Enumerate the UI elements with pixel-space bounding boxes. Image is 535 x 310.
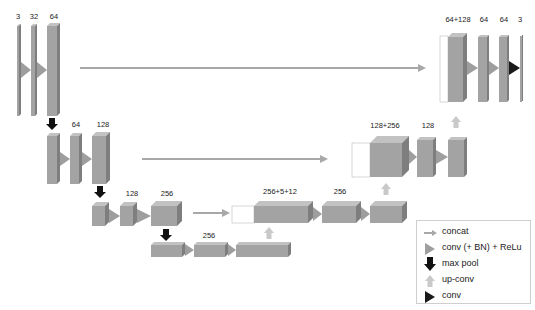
bottleneck-block-3 — [236, 242, 291, 257]
conv-relu-triangle-icon — [361, 207, 370, 221]
concat-arrow-level1 — [80, 64, 426, 72]
label-enc1-32: 32 — [30, 12, 38, 21]
concat-arrow-icon — [423, 225, 437, 237]
conv-triangle-icon — [423, 289, 437, 301]
dec3-block-256b — [370, 201, 407, 223]
label-dec1-64b: 64 — [500, 15, 508, 24]
conv-relu-triangle-icon — [82, 152, 92, 166]
legend-label: conv — [442, 290, 461, 300]
dec1-block-3 — [520, 35, 523, 102]
up-conv-arrow-icon — [264, 227, 274, 239]
bottleneck-block-1 — [151, 242, 185, 257]
conv-relu-triangle-icon — [109, 209, 120, 223]
label-enc2-64: 64 — [72, 120, 80, 129]
enc3-block-128a — [92, 202, 109, 226]
dec2-block-128a — [417, 137, 436, 177]
max-pool-arrow-icon — [160, 229, 172, 241]
concat-arrow-level3 — [193, 209, 230, 217]
label-dec1-concat: 64+128 — [445, 15, 470, 24]
legend-item-conv: conv — [423, 288, 461, 302]
max-pool-arrow-icon — [423, 257, 437, 269]
conv-relu-triangle-icon — [137, 209, 151, 223]
enc2-block-64a — [47, 133, 60, 184]
up-conv-arrow-icon — [451, 116, 461, 128]
legend-item-max-pool: max pool — [423, 256, 479, 270]
conv-relu-triangle-icon — [37, 62, 47, 78]
label-dec3-256: 256 — [334, 187, 347, 196]
legend: concat conv (+ BN) + ReLu max pool up-co… — [416, 220, 531, 304]
label-bottleneck-256: 256 — [203, 231, 216, 240]
up-conv-arrow-icon — [423, 273, 437, 285]
legend-item-concat: concat — [423, 224, 469, 238]
conv-triangle-icon — [509, 61, 520, 75]
legend-label: conv (+ BN) + ReLu — [442, 242, 522, 252]
dec1-block-concat — [440, 33, 467, 102]
enc1-block-32 — [31, 24, 37, 116]
dec1-block-64a — [478, 35, 489, 102]
conv-relu-triangle-icon — [228, 244, 236, 256]
label-enc2-128: 128 — [97, 120, 110, 129]
enc2-block-128 — [92, 132, 110, 184]
conv-relu-triangle-icon — [60, 152, 70, 166]
conv-relu-triangle-icon — [21, 62, 31, 78]
dec3-block-concat — [232, 201, 313, 223]
label-dec1-3: 3 — [518, 15, 522, 24]
enc3-block-256 — [151, 201, 182, 226]
dec3-block-256a — [322, 201, 361, 223]
dec1-block-64b — [499, 35, 509, 102]
label-dec1-64a: 64 — [480, 15, 488, 24]
label-enc1-3: 3 — [16, 12, 20, 21]
conv-relu-triangle-icon — [423, 241, 437, 253]
conv-relu-triangle-icon — [467, 61, 478, 75]
enc1-block-64 — [47, 23, 60, 116]
conv-relu-triangle-icon — [409, 150, 417, 164]
legend-item-conv-relu: conv (+ BN) + ReLu — [423, 240, 522, 254]
conv-relu-triangle-icon — [313, 207, 322, 221]
enc2-block-64b — [70, 133, 82, 184]
label-dec2-128: 128 — [422, 121, 435, 130]
label-dec3-concat: 256+5+12 — [263, 187, 297, 196]
up-conv-arrow-icon — [381, 183, 391, 195]
label-enc1-64: 64 — [50, 12, 58, 21]
legend-label: max pool — [442, 258, 479, 268]
conv-relu-triangle-icon — [436, 150, 448, 164]
conv-relu-triangle-icon — [185, 244, 194, 256]
bottleneck-block-2 — [194, 242, 228, 257]
dec2-block-concat — [352, 136, 409, 177]
legend-label: concat — [442, 226, 469, 236]
legend-item-up-conv: up-conv — [423, 272, 474, 286]
label-enc3-256: 256 — [161, 189, 174, 198]
concat-arrow-level2 — [142, 155, 328, 163]
max-pool-arrow-icon — [46, 118, 58, 130]
max-pool-arrow-icon — [94, 186, 106, 198]
enc3-block-128b — [120, 202, 137, 226]
label-enc3-128: 128 — [126, 189, 139, 198]
label-dec2-concat: 128+256 — [370, 121, 399, 130]
enc1-block-3 — [17, 24, 21, 116]
conv-relu-triangle-icon — [489, 61, 499, 75]
dec2-block-128b — [448, 137, 467, 177]
legend-label: up-conv — [442, 274, 474, 284]
